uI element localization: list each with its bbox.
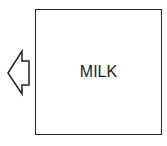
left-arrow-icon	[0, 0, 40, 146]
milk-label: MILK	[80, 63, 117, 81]
milk-box: MILK	[35, 9, 162, 135]
